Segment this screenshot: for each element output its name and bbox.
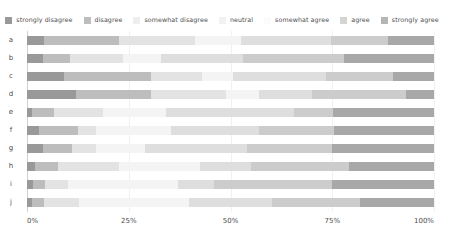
bar-segment-c-disagree[interactable]: [64, 72, 152, 81]
bar-segment-a-somewhat-agree[interactable]: [241, 36, 331, 45]
bar-segment-d-agree[interactable]: [312, 90, 406, 99]
bar-segment-i-somewhat-disagree[interactable]: [45, 180, 67, 189]
bar-segment-b-strongly-agree[interactable]: [344, 54, 434, 63]
bar-segment-e-strongly-agree[interactable]: [333, 108, 434, 117]
bar-segment-h-strongly-disagree[interactable]: [27, 162, 35, 171]
bar-segment-d-disagree[interactable]: [76, 90, 151, 99]
bar-segment-g-neutral[interactable]: [96, 144, 145, 153]
bar-row-b[interactable]: [27, 54, 434, 63]
bar-segment-h-disagree[interactable]: [35, 162, 57, 171]
bar-segment-g-strongly-disagree[interactable]: [27, 144, 43, 153]
y-axis-label-c: c: [0, 72, 22, 81]
bar-segment-a-neutral[interactable]: [195, 36, 242, 45]
bar-segment-g-somewhat-agree[interactable]: [145, 144, 247, 153]
legend-label: somewhat agree: [275, 16, 329, 24]
bar-row-h[interactable]: [27, 162, 434, 171]
bar-segment-a-strongly-agree[interactable]: [388, 36, 434, 45]
bar-segment-f-somewhat-agree[interactable]: [171, 126, 259, 135]
bar-row-e[interactable]: [27, 108, 434, 117]
bar-segment-c-strongly-agree[interactable]: [393, 72, 434, 81]
bar-segment-i-agree[interactable]: [214, 180, 332, 189]
bar-segment-c-somewhat-agree[interactable]: [233, 72, 327, 81]
bar-segment-b-disagree[interactable]: [43, 54, 69, 63]
bar-segment-e-neutral[interactable]: [103, 108, 166, 117]
bar-segment-c-agree[interactable]: [326, 72, 393, 81]
bar-segment-f-somewhat-disagree[interactable]: [78, 126, 96, 135]
bar-segment-j-strongly-agree[interactable]: [360, 198, 434, 207]
y-axis-label-f: f: [0, 126, 22, 135]
bar-segment-h-agree[interactable]: [251, 162, 349, 171]
legend-item-agree[interactable]: agree: [340, 16, 370, 24]
legend-item-strongly-disagree[interactable]: strongly disagree: [5, 16, 72, 24]
legend-swatch-icon: [264, 17, 271, 24]
y-axis-label-j: j: [0, 198, 22, 207]
bar-row-a[interactable]: [27, 36, 434, 45]
chart-legend: strongly disagreedisagreesomewhat disagr…: [0, 13, 455, 27]
bar-row-c[interactable]: [27, 72, 434, 81]
bar-segment-e-disagree[interactable]: [32, 108, 54, 117]
legend-item-somewhat-agree[interactable]: somewhat agree: [264, 16, 329, 24]
legend-item-somewhat-disagree[interactable]: somewhat disagree: [133, 16, 207, 24]
bar-segment-g-somewhat-disagree[interactable]: [72, 144, 96, 153]
bar-segment-a-somewhat-disagree[interactable]: [119, 36, 194, 45]
bar-row-i[interactable]: [27, 180, 434, 189]
bar-row-j[interactable]: [27, 198, 434, 207]
bar-segment-b-strongly-disagree[interactable]: [27, 54, 43, 63]
y-axis-label-i: i: [0, 180, 22, 189]
legend-label: neutral: [230, 16, 253, 24]
bar-row-f[interactable]: [27, 126, 434, 135]
bar-segment-f-strongly-disagree[interactable]: [27, 126, 39, 135]
bar-segment-c-neutral[interactable]: [202, 72, 233, 81]
bar-segment-g-agree[interactable]: [247, 144, 332, 153]
bar-segment-d-somewhat-agree[interactable]: [259, 90, 312, 99]
bar-segment-g-disagree[interactable]: [43, 144, 71, 153]
bar-segment-e-agree[interactable]: [294, 108, 333, 117]
bar-row-g[interactable]: [27, 144, 434, 153]
bar-segment-f-agree[interactable]: [259, 126, 334, 135]
bar-segment-e-somewhat-agree[interactable]: [166, 108, 294, 117]
legend-swatch-icon: [133, 17, 140, 24]
bar-segment-j-disagree[interactable]: [32, 198, 44, 207]
bar-segment-g-strongly-agree[interactable]: [332, 144, 434, 153]
bar-segment-b-agree[interactable]: [243, 54, 345, 63]
legend-item-neutral[interactable]: neutral: [219, 16, 253, 24]
legend-label: strongly agree: [392, 16, 439, 24]
bar-segment-j-neutral[interactable]: [79, 198, 189, 207]
bar-segment-c-somewhat-disagree[interactable]: [151, 72, 202, 81]
bar-segment-i-somewhat-agree[interactable]: [178, 180, 215, 189]
y-axis-label-a: a: [0, 36, 22, 45]
bar-row-d[interactable]: [27, 90, 434, 99]
bar-segment-j-somewhat-disagree[interactable]: [44, 198, 79, 207]
bar-segment-d-strongly-agree[interactable]: [406, 90, 434, 99]
bar-segment-h-somewhat-agree[interactable]: [200, 162, 251, 171]
bar-segment-j-agree[interactable]: [272, 198, 360, 207]
legend-swatch-icon: [381, 17, 388, 24]
bar-segment-h-strongly-agree[interactable]: [349, 162, 434, 171]
bar-segment-d-strongly-disagree[interactable]: [27, 90, 76, 99]
bar-segment-f-disagree[interactable]: [39, 126, 78, 135]
bar-segment-d-somewhat-disagree[interactable]: [151, 90, 226, 99]
bar-segment-d-neutral[interactable]: [226, 90, 259, 99]
bar-segment-i-neutral[interactable]: [68, 180, 178, 189]
bar-segment-c-strongly-disagree[interactable]: [27, 72, 64, 81]
x-axis-tick-0pct: 0%: [27, 216, 38, 226]
x-axis-tick-100pct: 100%: [414, 216, 434, 226]
bar-segment-b-somewhat-agree[interactable]: [161, 54, 242, 63]
legend-item-strongly-agree[interactable]: strongly agree: [381, 16, 439, 24]
bar-segment-a-disagree[interactable]: [44, 36, 119, 45]
bar-segment-b-somewhat-disagree[interactable]: [70, 54, 123, 63]
bar-segment-i-disagree[interactable]: [33, 180, 45, 189]
bar-segment-h-neutral[interactable]: [119, 162, 200, 171]
legend-label: agree: [351, 16, 370, 24]
bar-segment-a-strongly-disagree[interactable]: [27, 36, 44, 45]
bar-segment-e-somewhat-disagree[interactable]: [54, 108, 103, 117]
x-axis-tick-50pct: 50%: [223, 216, 239, 226]
bar-segment-f-neutral[interactable]: [96, 126, 171, 135]
bar-segment-j-somewhat-agree[interactable]: [189, 198, 272, 207]
bar-segment-a-agree[interactable]: [331, 36, 388, 45]
bar-segment-h-somewhat-disagree[interactable]: [58, 162, 119, 171]
bar-segment-f-strongly-agree[interactable]: [334, 126, 434, 135]
legend-item-disagree[interactable]: disagree: [84, 16, 123, 24]
bar-segment-i-strongly-agree[interactable]: [332, 180, 434, 189]
bar-segment-b-neutral[interactable]: [123, 54, 162, 63]
